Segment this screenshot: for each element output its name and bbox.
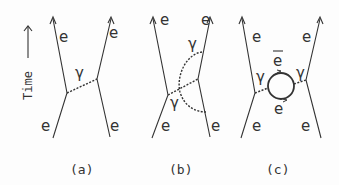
- time-axis: Time: [21, 26, 35, 100]
- label-e: e: [211, 117, 220, 135]
- label-gamma: γ: [188, 35, 197, 53]
- caption-a: (a): [70, 162, 93, 177]
- label-e: e: [201, 11, 210, 29]
- feynman-diagram-figure: Time e e e e γ (a) e e e e γ γ (b): [0, 0, 339, 185]
- panel-c: e e e e γ γ e e (c): [239, 17, 323, 177]
- label-e: e: [302, 28, 311, 46]
- label-e: e: [59, 28, 68, 46]
- label-gamma: γ: [170, 94, 179, 112]
- label-e: e: [160, 11, 169, 29]
- label-e: e: [274, 100, 283, 118]
- caption-b: (b): [169, 162, 192, 177]
- panel-b: e e e e γ γ (b): [150, 11, 220, 177]
- photon-line: [168, 79, 198, 95]
- label-e: e: [110, 117, 119, 135]
- label-gamma: γ: [75, 64, 84, 82]
- label-e: e: [252, 28, 261, 46]
- label-gamma: γ: [256, 68, 265, 86]
- photon-line-left: [255, 88, 268, 93]
- label-e: e: [41, 117, 50, 135]
- electron-line-right: [198, 19, 210, 137]
- label-e: e: [161, 117, 170, 135]
- label-e: e: [252, 117, 261, 135]
- diagram-canvas: Time e e e e γ (a) e e e e γ γ (b): [0, 0, 339, 185]
- panel-a: e e e e γ (a): [41, 17, 119, 177]
- loop-arrow-icon: [283, 99, 287, 102]
- time-label: Time: [21, 71, 35, 100]
- label-e: e: [109, 24, 118, 42]
- label-e: e: [301, 117, 310, 135]
- caption-c: (c): [266, 162, 289, 177]
- electron-loop: [268, 73, 294, 99]
- label-e-bar: e: [273, 52, 282, 70]
- label-gamma: γ: [296, 64, 305, 82]
